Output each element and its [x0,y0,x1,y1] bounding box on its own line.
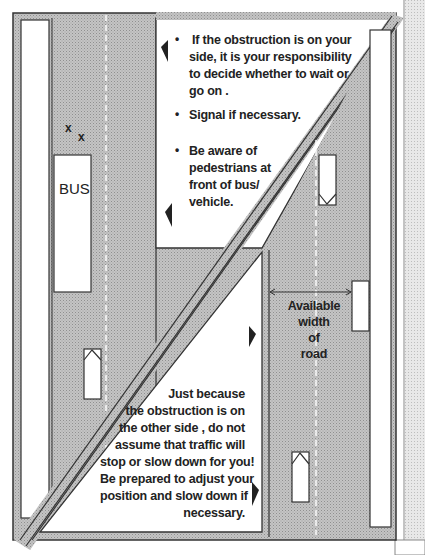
text-line: Be aware of [189,143,271,160]
other-side-warning-text: Just because the obstruction is on the o… [100,386,245,522]
available-width-label: Available width of road [279,298,349,362]
text-line: If the obstruction is on your [189,32,352,49]
text-line: side, it is your responsibility [189,49,352,66]
right-verge [370,30,391,527]
page-edge-strip [395,0,425,555]
text-line: go on . [189,83,352,100]
bullet-icon: • [175,143,189,211]
text-line: Signal if necessary. [189,107,301,124]
text-line: the other side , do not [100,420,245,437]
text-line: stop or slow down for you! [100,454,245,471]
bullet-icon: • [175,107,189,124]
text-line: of [279,330,349,346]
text-line: pedestrians at [189,160,271,177]
text-line: the obstruction is on [100,403,245,420]
text-line: road [279,346,349,362]
text-line: front of bus/ [189,177,271,194]
bullet-signal: • Signal if necessary. [175,107,375,124]
x-mark: x [65,121,72,135]
text-line: width [279,314,349,330]
text-line: vehicle. [189,194,271,211]
text-line: Be prepared to adjust your [100,471,245,488]
text-line: assume that traffic will [100,437,245,454]
text-line: necessary. [100,505,245,522]
text-line: Available [279,298,349,314]
text-line: position and slow down if [100,488,245,505]
parked-vehicle-icon [352,281,369,331]
text-line: Just because [100,386,245,403]
bus-label: BUS [59,180,90,197]
bus-icon [54,155,91,292]
bullet-icon: • [175,32,189,100]
car-up-icon [292,452,309,502]
car-up-icon [84,349,101,399]
x-mark: x [78,130,85,144]
bullet-obstruction-your-side: • If the obstruction is on your side, it… [175,32,375,100]
text-line: to decide whether to wait or [189,66,352,83]
bullet-pedestrians: • Be aware of pedestrians at front of bu… [175,143,325,211]
road-diagram: x x BUS • If the obstruction is on your … [0,0,425,555]
left-verge [21,20,49,518]
